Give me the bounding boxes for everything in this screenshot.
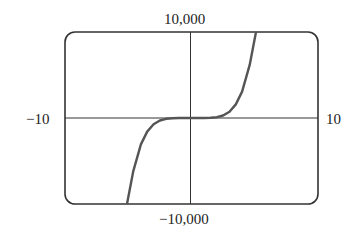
plot-area — [0, 0, 361, 236]
